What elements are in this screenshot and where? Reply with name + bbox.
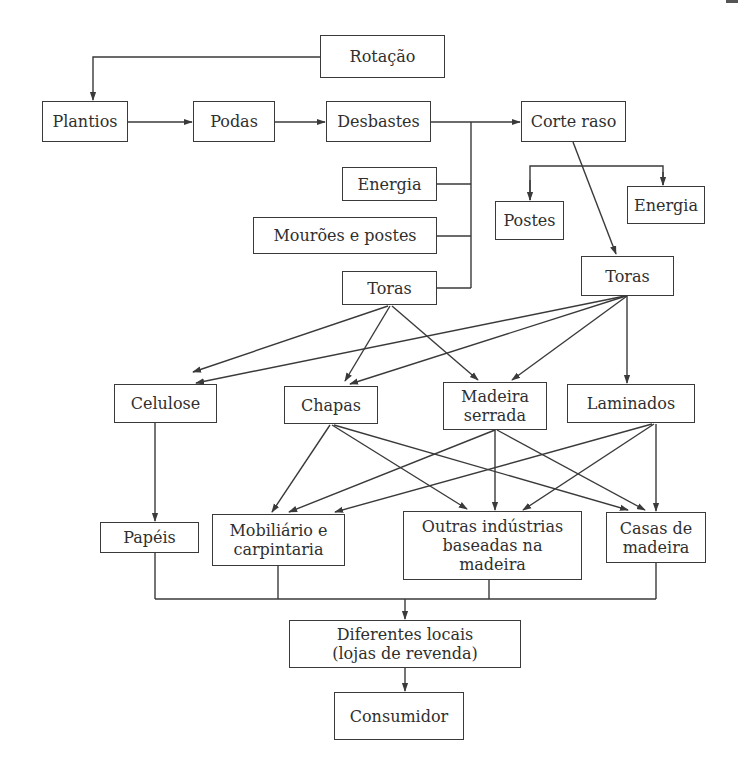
node-mobiliario: Mobiliário e carpintaria	[212, 514, 345, 566]
node-corte-raso: Corte raso	[521, 101, 626, 142]
node-celulose: Celulose	[114, 384, 217, 423]
edge-corte-toras	[573, 142, 616, 254]
node-casas-madeira: Casas de madeira	[606, 512, 706, 563]
node-podas: Podas	[193, 101, 275, 142]
node-mouroes-postes: Mourões e postes	[253, 217, 437, 254]
edge-laminados-mobiliario	[335, 424, 652, 512]
node-chapas: Chapas	[284, 386, 378, 424]
edge-chapas-outras	[332, 425, 467, 509]
node-energia-desbaste: Energia	[342, 167, 437, 201]
node-madeira-serrada: Madeira serrada	[443, 382, 547, 430]
node-postes: Postes	[495, 201, 564, 240]
flowchart-canvas: Rotação Plantios Podas Desbastes Corte r…	[0, 0, 742, 775]
edge-toras1-celulose	[193, 306, 388, 372]
edge-laminados-outras	[523, 424, 654, 510]
node-plantios: Plantios	[42, 101, 128, 142]
node-energia-corte: Energia	[627, 186, 705, 224]
node-rotacao: Rotação	[320, 35, 445, 78]
node-toras-desbaste: Toras	[342, 271, 437, 305]
node-diferentes-locais: Diferentes locais (lojas de revenda)	[289, 620, 521, 668]
node-desbastes: Desbastes	[326, 101, 431, 142]
edge-chapas-casas	[334, 425, 628, 510]
edge-rotacao-plantios	[93, 57, 320, 100]
edge-madeira-casas	[497, 430, 645, 510]
edge-toras1-chapas	[345, 306, 390, 381]
node-papeis: Papéis	[100, 522, 199, 553]
node-consumidor: Consumidor	[334, 692, 464, 740]
edge-toras2-celulose	[196, 296, 625, 383]
node-toras-corte: Toras	[581, 256, 674, 296]
node-outras-industrias: Outras indústrias baseadas na madeira	[403, 511, 582, 580]
edge-toras1-madeira	[392, 306, 478, 380]
edge-toras2-chapas	[350, 296, 626, 384]
node-laminados: Laminados	[567, 384, 695, 423]
edge-toras2-madeira	[512, 296, 627, 380]
